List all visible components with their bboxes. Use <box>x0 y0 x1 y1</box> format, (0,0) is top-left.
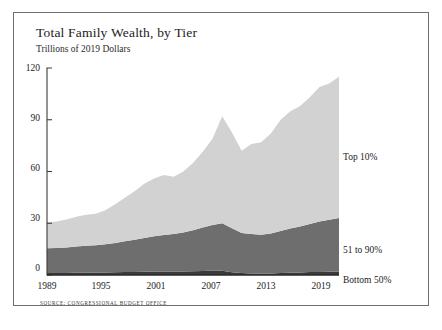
xtick-label-2013: 2013 <box>246 281 286 291</box>
plot-area: 120 90 60 30 0 1989 1995 2001 2007 2013 … <box>14 13 430 307</box>
legend-label-51-to-90: 51 to 90% <box>343 245 382 255</box>
chart-figure: Total Family Wealth, by Tier Trillions o… <box>13 12 429 306</box>
xtick-label-2001: 2001 <box>136 281 176 291</box>
xtick-label-1995: 1995 <box>81 281 121 291</box>
xtick-label-2007: 2007 <box>191 281 231 291</box>
y-tick-marks <box>47 120 52 224</box>
ytick-label-30: 30 <box>14 213 40 223</box>
ytick-label-60: 60 <box>14 163 40 173</box>
source-note: SOURCE: CONGRESSIONAL BUDGET OFFICE <box>40 300 167 306</box>
areas-group <box>47 77 339 275</box>
ytick-label-0: 0 <box>14 263 40 273</box>
ytick-label-90: 90 <box>14 113 40 123</box>
legend-label-top-10: Top 10% <box>343 152 377 162</box>
xtick-label-2019: 2019 <box>301 281 341 291</box>
legend-label-bottom-50: Bottom 50% <box>343 275 391 285</box>
xtick-label-1989: 1989 <box>27 281 67 291</box>
area-top-10 <box>47 77 339 249</box>
ytick-label-120: 120 <box>14 63 40 73</box>
